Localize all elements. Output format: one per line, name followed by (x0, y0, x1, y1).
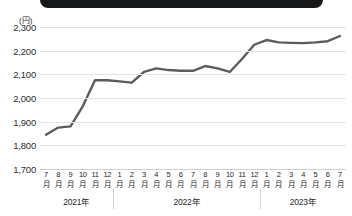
gridline (40, 122, 346, 123)
y-axis-tick-label: 1,800 (13, 140, 36, 151)
year-label: 2023年 (290, 195, 317, 207)
y-axis-tick-label: 2,000 (13, 93, 36, 104)
x-axis-year-labels: 2021年2022年2023年 (40, 193, 346, 211)
title-banner (40, 0, 323, 8)
year-label: 2022年 (173, 195, 200, 207)
y-axis-tick-label: 1,700 (13, 164, 36, 175)
year-label: 2021年 (63, 195, 90, 207)
year-separator (113, 189, 114, 209)
plot-area (40, 27, 346, 169)
gridline (40, 145, 346, 146)
gridline (40, 74, 346, 75)
x-axis-month-labels: 7月8月9月10月11月12月1月2月3月4月5月6月7月8月9月10月11月1… (40, 170, 346, 192)
y-axis-tick-label: 2,100 (13, 69, 36, 80)
month-suffix: 月 (332, 180, 348, 190)
y-axis-labels: 2,3002,2002,1002,0001,9001,8001,700 (0, 27, 38, 169)
year-separator (260, 189, 261, 209)
gridline (40, 51, 346, 52)
x-axis-tick-label: 7月 (332, 170, 348, 189)
month-number: 7 (332, 170, 348, 180)
y-axis-tick-label: 2,300 (13, 22, 36, 33)
y-axis-tick-label: 1,900 (13, 116, 36, 127)
gridline (40, 27, 346, 28)
chart-page: (円) 2,3002,2002,1002,0001,9001,8001,700 … (0, 0, 352, 216)
gridline (40, 98, 346, 99)
y-axis-tick-label: 2,200 (13, 45, 36, 56)
